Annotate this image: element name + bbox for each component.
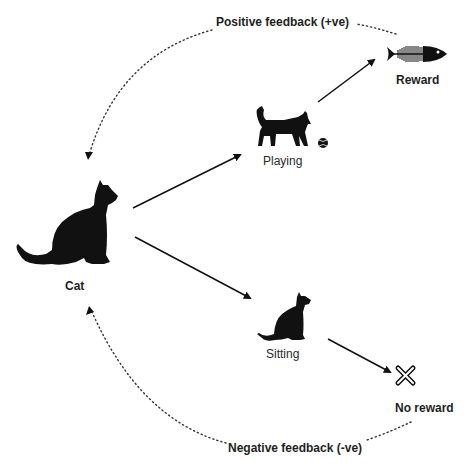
sitting-label: Sitting <box>266 347 299 361</box>
playing-label: Playing <box>263 154 302 168</box>
negative-feedback-label: Negative feedback (-ve) <box>228 441 362 455</box>
arrow-cat-to-playing <box>133 155 240 208</box>
negative-feedback-arrowhead <box>86 306 94 315</box>
reward-label: Reward <box>396 73 439 87</box>
arrow-cat-to-sitting <box>135 237 250 298</box>
arrow-sitting-to-no-reward <box>328 339 390 372</box>
positive-feedback-label: Positive feedback (+ve) <box>216 15 349 29</box>
diagram-canvas <box>0 0 469 470</box>
no-reward-label: No reward <box>395 401 454 415</box>
positive-feedback-arc <box>90 24 396 152</box>
ball-icon <box>318 138 328 148</box>
playing-cat-icon <box>257 106 328 148</box>
cat-label: Cat <box>65 279 84 293</box>
cat-icon <box>17 180 119 265</box>
positive-feedback-arrowhead <box>85 152 93 160</box>
arrow-playing-to-reward <box>318 60 374 102</box>
negative-feedback-arc <box>92 312 411 443</box>
x-mark-icon <box>398 368 413 383</box>
fish-bone-icon <box>387 46 447 62</box>
sitting-cat-icon <box>257 292 311 341</box>
